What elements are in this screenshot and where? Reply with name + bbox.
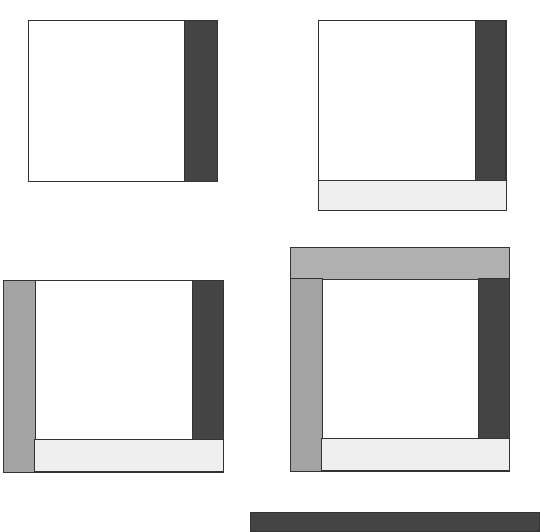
bottom-strip: [321, 438, 510, 471]
right-strip: [192, 280, 224, 442]
left-strip: [3, 280, 36, 473]
right-strip: [478, 278, 510, 441]
bottom-strip: [34, 439, 224, 472]
right-strip: [184, 20, 218, 182]
step-3-block: [3, 280, 224, 473]
left-strip: [290, 278, 323, 472]
step-1-block: [28, 20, 218, 182]
step-5-strip-partial: [250, 512, 540, 532]
bottom-strip: [318, 180, 507, 211]
top-strip: [290, 247, 510, 280]
step-4-block: [290, 247, 510, 472]
right-strip: [475, 20, 506, 182]
step-2-block: [318, 20, 507, 211]
